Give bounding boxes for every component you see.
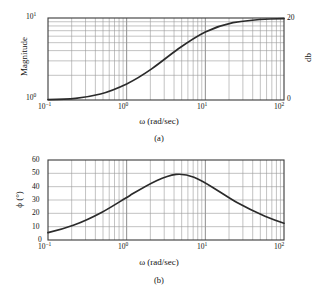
magnitude-xtick-4: 102 xyxy=(274,103,284,111)
magnitude-xtick-1: 10−1 xyxy=(38,103,51,111)
phase-xtick-1: 10−1 xyxy=(38,243,51,251)
phase-plot-panel: ϕ (°) 60 50 40 30 20 10 0 10−1 100 101 1… xyxy=(0,148,328,298)
db-ylabel: db xyxy=(304,46,313,70)
magnitude-xtick-2: 100 xyxy=(118,103,128,111)
phase-xtick-4: 102 xyxy=(274,243,284,251)
phase-ytick-20: 20 xyxy=(32,209,40,217)
magnitude-plot-panel: Magnitude db 101 100 20 0 10−1 100 101 1… xyxy=(0,0,328,150)
phase-gridlines xyxy=(48,160,284,240)
phase-ytick-60: 60 xyxy=(32,156,40,164)
panel-b-caption: (b) xyxy=(0,276,318,285)
magnitude-plot-svg xyxy=(0,0,328,150)
phase-ylabel: ϕ (°) xyxy=(15,183,24,217)
db-ytick-bottom: 0 xyxy=(287,95,291,103)
magnitude-ylabel: Magnitude xyxy=(20,21,29,93)
panel-a-caption: (a) xyxy=(0,134,318,143)
magnitude-xlabel: ω (rad/sec) xyxy=(0,117,318,126)
phase-xtick-3: 101 xyxy=(197,243,207,251)
phase-xlabel: ω (rad/sec) xyxy=(0,258,318,267)
bode-plot-figure: Magnitude db 101 100 20 0 10−1 100 101 1… xyxy=(0,0,328,298)
phase-ytick-40: 40 xyxy=(32,183,40,191)
magnitude-ytick-bottom: 100 xyxy=(26,94,36,102)
magnitude-xtick-3: 101 xyxy=(197,103,207,111)
db-ytick-top: 20 xyxy=(287,14,295,22)
phase-curve xyxy=(48,174,284,232)
phase-ytick-30: 30 xyxy=(32,196,40,204)
phase-ytick-10: 10 xyxy=(32,223,40,231)
magnitude-ytick-top: 101 xyxy=(26,13,36,21)
phase-xtick-2: 100 xyxy=(118,243,128,251)
phase-ytick-50: 50 xyxy=(32,169,40,177)
